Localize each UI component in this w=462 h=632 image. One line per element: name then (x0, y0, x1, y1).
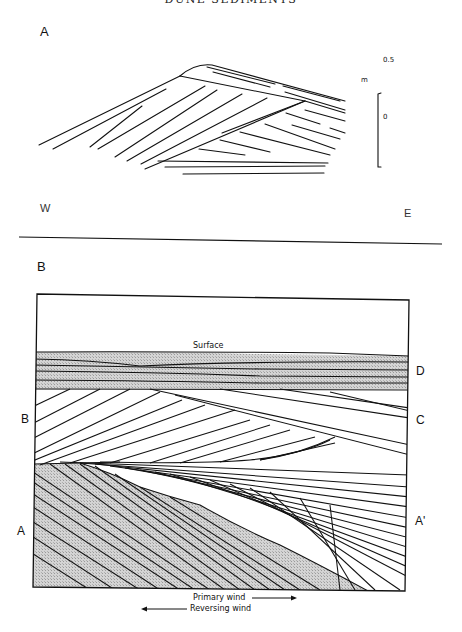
unit-b-lamina (110, 420, 250, 463)
primary-wind-label: Primary wind (193, 593, 245, 602)
surface-label: Surface (193, 341, 223, 350)
unit-c-lamina (175, 395, 410, 455)
unit-label-a: A (17, 524, 25, 538)
unit-label-d: D (416, 364, 425, 378)
unit-a-prime-lamina (60, 462, 410, 475)
unit-b-lamina (150, 425, 270, 463)
primary-wind-arrowhead (291, 596, 297, 601)
reversing-wind-label: Reversing wind (190, 604, 251, 613)
panel-b-drawing (0, 0, 462, 632)
unit-b-lamina (70, 410, 235, 463)
unit-b-lamina (30, 389, 100, 425)
unit-c-lamina (280, 389, 410, 408)
unit-label-a-prime: A' (415, 514, 425, 528)
unit-label-c: C (416, 413, 425, 427)
unit-c-lamina (150, 389, 410, 445)
unit-b-lamina (30, 389, 130, 440)
unit-label-b: B (21, 412, 29, 426)
unit-b-lamina (40, 405, 205, 465)
unit-b-lamina (30, 400, 182, 462)
trough-surface (100, 440, 330, 463)
reversing-wind-arrowhead (141, 607, 147, 612)
